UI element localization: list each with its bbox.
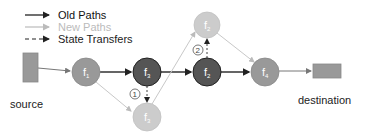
legend: Old Paths New Paths State Transfers <box>25 9 133 45</box>
destination-box <box>313 64 341 78</box>
step-marker-2: 2 <box>193 45 203 55</box>
destination-label: destination <box>298 94 351 106</box>
legend-label-state-transfers: State Transfers <box>58 33 133 45</box>
node-f4: f4 <box>251 58 279 86</box>
node-f2-old: f2 <box>193 58 221 86</box>
legend-item-old-paths: Old Paths <box>25 9 107 21</box>
node-f3-old: f3 <box>133 58 161 86</box>
source-box <box>23 53 38 82</box>
legend-item-state-transfers: State Transfers <box>25 33 133 45</box>
edge-source-f1 <box>38 68 70 71</box>
node-f2-new: f2 <box>194 12 220 38</box>
step-marker-1: 1 <box>130 89 140 99</box>
svg-text:1: 1 <box>133 90 138 99</box>
state-transfer-diagram: Old Paths New Paths State Transfers sour… <box>0 0 369 134</box>
node-f1: f1 <box>72 58 100 86</box>
node-f3-new: f3 <box>133 103 161 131</box>
legend-item-new-paths: New Paths <box>25 21 112 33</box>
edge-f1-f3-new <box>96 82 131 111</box>
svg-text:2: 2 <box>196 46 201 55</box>
legend-label-old-paths: Old Paths <box>58 9 107 21</box>
source-label: source <box>10 98 43 110</box>
edge-f2-new-f4 <box>217 33 254 62</box>
legend-label-new-paths: New Paths <box>58 21 112 33</box>
